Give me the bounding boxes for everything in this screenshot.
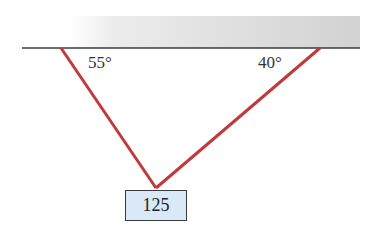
left-angle-label: 55° [88,54,112,71]
weight-value: 125 [143,195,170,216]
ceiling-band [70,16,360,48]
right-rope [156,48,320,188]
right-angle-label: 40° [258,54,282,71]
force-diagram [0,0,376,230]
weight-box: 125 [125,190,187,221]
